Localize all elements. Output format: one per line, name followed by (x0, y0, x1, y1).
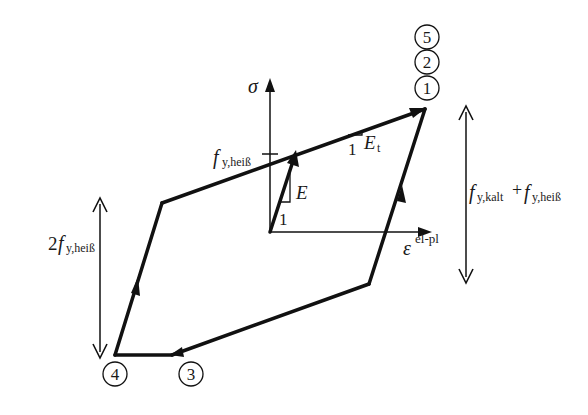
Et-label: E (363, 132, 376, 153)
fy-heiss-label-f: f (213, 146, 221, 169)
svg-text:f: f (58, 232, 66, 255)
sigma-axis (265, 78, 275, 232)
fy-heiss-label-sub: y,heiß (222, 155, 251, 169)
svg-text:1: 1 (423, 79, 432, 98)
svg-text:4: 4 (111, 365, 120, 384)
svg-text:f: f (469, 181, 477, 204)
E-one-label: 1 (279, 210, 288, 229)
svg-text:f: f (524, 181, 532, 204)
E-label: E (295, 182, 308, 203)
range-left-label: 2 f y,heiß (48, 232, 95, 255)
point-4: 4 (103, 362, 127, 386)
epsilon-superscript: el-pl (415, 231, 439, 246)
epsilon-axis (270, 227, 432, 237)
range-arrow-left (93, 198, 107, 358)
range-right-label: f y,kalt + f y,heiß (469, 180, 561, 204)
epsilon-label: ε (403, 237, 411, 259)
hysteresis-diagram: 5 2 1 4 3 σ ε el-pl f y,heiß E 1 E t 1 f… (0, 0, 588, 415)
point-3: 3 (179, 362, 203, 386)
point-5: 5 (415, 25, 439, 49)
svg-text:2: 2 (48, 233, 58, 254)
svg-text:y,heiß: y,heiß (66, 241, 95, 255)
point-1: 1 (415, 76, 439, 100)
point-2: 2 (415, 50, 439, 74)
svg-text:2: 2 (423, 53, 432, 72)
svg-text:5: 5 (423, 28, 432, 47)
svg-text:y,kalt: y,kalt (477, 190, 504, 204)
Et-one-label: 1 (348, 140, 357, 159)
svg-text:+: + (512, 180, 522, 200)
svg-text:y,heiß: y,heiß (532, 190, 561, 204)
Et-sub-label: t (377, 141, 381, 155)
svg-text:3: 3 (187, 365, 196, 384)
sigma-label: σ (248, 75, 259, 97)
